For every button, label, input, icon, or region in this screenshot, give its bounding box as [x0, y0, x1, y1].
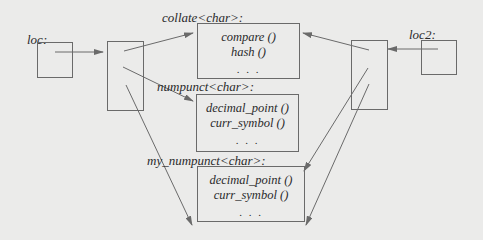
facet-box-numpunct: decimal_point () curr_symbol () . . . — [196, 94, 299, 152]
facet-box-collate: compare () hash () . . . — [197, 23, 300, 79]
locale-box-loc2 — [421, 40, 457, 75]
facet-label-numpunct: numpunct<char>: — [157, 80, 254, 93]
locale-box-loc — [37, 42, 73, 78]
facet-member: curr_symbol () — [197, 116, 298, 131]
facet-table-loc2 — [351, 40, 388, 110]
facet-member: compare () — [198, 30, 299, 45]
facet-member: decimal_point () — [198, 173, 304, 188]
facet-ellipsis: . . . — [197, 131, 298, 149]
facet-member: decimal_point () — [197, 101, 298, 116]
facet-member: curr_symbol () — [198, 188, 304, 203]
facet-ellipsis: . . . — [198, 203, 304, 221]
facet-table-loc — [107, 41, 144, 111]
facet-box-my-numpunct: decimal_point () curr_symbol () . . . — [197, 166, 305, 222]
facet-member: hash () — [198, 45, 299, 60]
facet-ellipsis: . . . — [198, 60, 299, 78]
